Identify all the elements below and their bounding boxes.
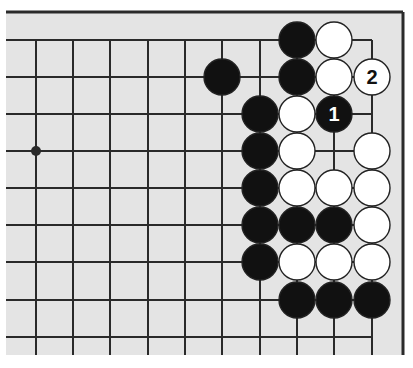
white-stone [354, 133, 390, 169]
black-stone [316, 282, 352, 318]
white-stone [316, 59, 352, 95]
move-number-label: 2 [366, 66, 377, 88]
black-stone [242, 96, 278, 132]
black-stone: 1 [316, 96, 352, 132]
star-points [31, 146, 41, 156]
white-stone [279, 244, 315, 280]
white-stone [354, 170, 390, 206]
black-stone [242, 170, 278, 206]
white-stone [279, 96, 315, 132]
black-stone [354, 282, 390, 318]
white-stone [279, 133, 315, 169]
black-stone [279, 282, 315, 318]
white-stone [316, 170, 352, 206]
white-stone [354, 244, 390, 280]
white-stone [354, 207, 390, 243]
white-stone [316, 244, 352, 280]
black-stone [279, 22, 315, 58]
star-point [31, 146, 41, 156]
black-stone [279, 207, 315, 243]
white-stone: 2 [354, 59, 390, 95]
white-stone [279, 170, 315, 206]
black-stone [242, 207, 278, 243]
move-number-label: 1 [328, 103, 339, 125]
black-stone [279, 59, 315, 95]
black-stone [316, 207, 352, 243]
white-stone [316, 22, 352, 58]
black-stone [204, 59, 240, 95]
go-board: 21 [0, 0, 413, 368]
black-stone [242, 244, 278, 280]
black-stone [242, 133, 278, 169]
